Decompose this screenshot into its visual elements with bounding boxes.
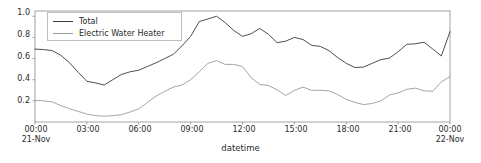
x-tick-label: 18:00 bbox=[328, 125, 368, 134]
legend-swatch-icon bbox=[53, 21, 73, 22]
legend-label: Electric Water Heater bbox=[79, 29, 165, 38]
chart-figure: 1.0 0.8 0.6 0.4 0.2 00:00 21-Nov 03:00 0… bbox=[0, 0, 481, 163]
series-line-electric-water-heater bbox=[35, 61, 450, 117]
x-axis-label: datetime bbox=[0, 143, 481, 153]
x-tick-label: 12:00 bbox=[224, 125, 264, 134]
x-tick-label: 06:00 bbox=[120, 125, 160, 134]
legend-entry-total: Total bbox=[53, 15, 98, 27]
x-tick-label: 03:00 bbox=[68, 125, 108, 134]
legend-entry-electric-water-heater: Electric Water Heater bbox=[53, 27, 165, 39]
y-tick-label: 0.8 bbox=[2, 30, 30, 39]
x-tick-label: 15:00 bbox=[276, 125, 316, 134]
y-tick-label: 0.6 bbox=[2, 52, 30, 61]
x-tick-label: 00:00 bbox=[16, 125, 56, 134]
legend-swatch-icon bbox=[53, 33, 73, 34]
y-tick-label: 0.4 bbox=[2, 74, 30, 83]
x-tick-label: 09:00 bbox=[172, 125, 212, 134]
x-tick-label: 21:00 bbox=[380, 125, 420, 134]
legend-label: Total bbox=[79, 17, 98, 26]
y-tick-label: 0.2 bbox=[2, 96, 30, 105]
chart-legend: Total Electric Water Heater bbox=[47, 12, 182, 41]
x-tick-label: 00:00 bbox=[430, 125, 470, 134]
y-tick-label: 1.0 bbox=[2, 8, 30, 17]
